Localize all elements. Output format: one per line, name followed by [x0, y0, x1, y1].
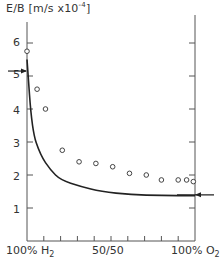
calculated-curve — [27, 60, 195, 196]
axes — [27, 15, 195, 241]
plot-area — [0, 0, 220, 262]
measured-points — [25, 49, 196, 184]
